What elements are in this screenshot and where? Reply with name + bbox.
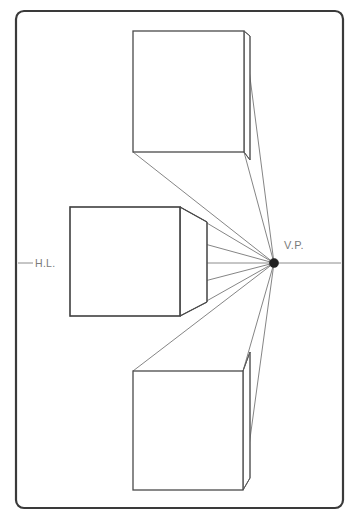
cube-above-right-face [244,31,250,160]
cube-mid-front-face [70,207,180,316]
cube-below-front-face [133,371,243,490]
ray-bottom-cube-top-right [243,263,274,371]
cube-above-front-face [133,31,244,152]
ray-top-cube-bottom-right [244,152,274,263]
cube-above-horizon [133,31,250,160]
cube-below-right-face [243,352,250,490]
perspective-drawing-canvas: V.P. H.L. [0,0,357,519]
cube-mid-right-face [180,207,207,316]
vanishing-point-label: V.P. [284,239,304,251]
vanishing-point-dot [269,258,278,267]
cube-on-horizon [70,207,207,316]
perspective-diagram-root: V.P. H.L. [0,0,357,519]
horizon-line-label: H.L. [35,257,55,269]
cube-below-horizon [133,352,250,490]
